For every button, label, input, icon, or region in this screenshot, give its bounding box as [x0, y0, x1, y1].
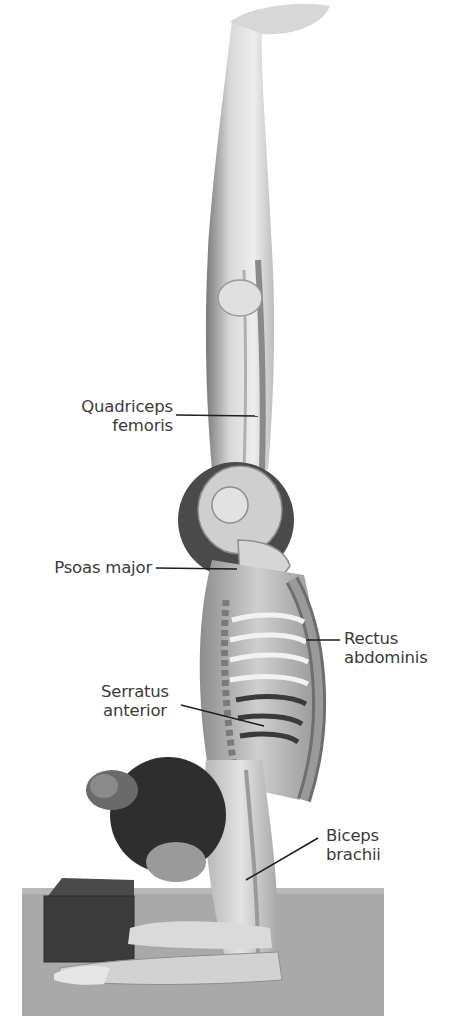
label-line: Psoas major	[30, 558, 152, 577]
label-line: anterior	[92, 701, 178, 720]
anatomy-illustration	[0, 0, 459, 1033]
label-quadriceps-femoris: Quadriceps femoris	[65, 397, 173, 435]
legs	[206, 4, 330, 470]
label-biceps-brachii: Biceps brachii	[326, 826, 381, 864]
label-line: brachii	[326, 845, 381, 864]
label-line: Quadriceps	[65, 397, 173, 416]
label-line: Rectus	[344, 629, 428, 648]
label-line: femoris	[65, 416, 173, 435]
label-psoas-major: Psoas major	[30, 558, 152, 577]
label-line: Serratus	[92, 682, 178, 701]
head	[86, 757, 226, 882]
leader-psoas	[156, 568, 237, 569]
label-serratus-anterior: Serratus anterior	[92, 682, 178, 720]
label-rectus-abdominis: Rectus abdominis	[344, 629, 428, 667]
label-line: abdominis	[344, 648, 428, 667]
leader-quadriceps	[176, 415, 258, 416]
label-line: Biceps	[326, 826, 381, 845]
yoga-block	[44, 878, 134, 962]
